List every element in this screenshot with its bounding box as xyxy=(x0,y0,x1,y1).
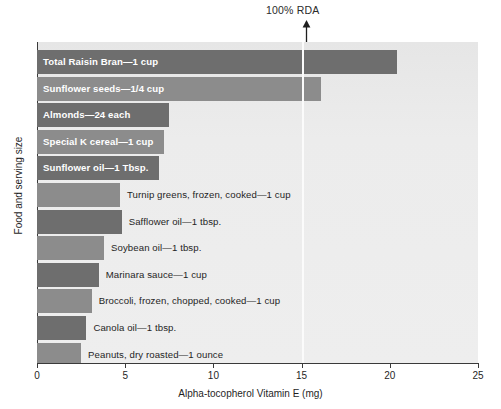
bar xyxy=(37,289,92,313)
x-tick xyxy=(390,363,391,368)
bar-label: Marinara sauce—1 cup xyxy=(106,270,207,280)
bar-label: Total Raisin Bran—1 cup xyxy=(43,57,158,67)
bar-row: Safflower oil—1 tbsp. xyxy=(37,210,478,234)
rda-reference-line xyxy=(302,42,304,363)
bar-row: Broccoli, frozen, chopped, cooked—1 cup xyxy=(37,289,478,313)
rda-annotation-label: 100% RDA xyxy=(266,4,320,16)
bar-row: Turnip greens, frozen, cooked—1 cup xyxy=(37,183,478,207)
bar-row: Sunflower oil—1 Tbsp. xyxy=(37,156,478,180)
bar-row: Marinara sauce—1 cup xyxy=(37,263,478,287)
bar-label: Almonds—24 each xyxy=(43,110,130,120)
bar xyxy=(37,183,120,207)
x-axis-label: Alpha-tocopherol Vitamin E (mg) xyxy=(0,388,501,399)
bar-label: Soybean oil—1 tbsp. xyxy=(111,243,201,253)
bar-label: Peanuts, dry roasted—1 ounce xyxy=(88,350,223,360)
bar-label: Broccoli, frozen, chopped, cooked—1 cup xyxy=(99,297,281,307)
x-tick xyxy=(37,363,38,368)
x-tick xyxy=(213,363,214,368)
bar xyxy=(37,236,104,260)
bar-label: Turnip greens, frozen, cooked—1 cup xyxy=(127,190,291,200)
x-tick-label: 20 xyxy=(384,370,395,381)
x-tick-label: 5 xyxy=(122,370,128,381)
x-tick-label: 0 xyxy=(34,370,40,381)
y-axis-label: Food and serving size xyxy=(13,86,24,286)
bar-series: Total Raisin Bran—1 cupSunflower seeds—1… xyxy=(37,42,478,363)
x-tick-label: 15 xyxy=(296,370,307,381)
x-tick xyxy=(125,363,126,368)
rda-up-arrow-icon xyxy=(301,20,312,44)
chart-figure: 100% RDA Total Raisin Bran—1 cupSunflowe… xyxy=(0,0,501,409)
bar-row: Special K cereal—1 cup xyxy=(37,130,478,154)
bar-row: Peanuts, dry roasted—1 ounce xyxy=(37,343,478,363)
bar-row: Canola oil—1 tbsp. xyxy=(37,316,478,340)
bar-row: Soybean oil—1 tbsp. xyxy=(37,236,478,260)
bar-label: Canola oil—1 tbsp. xyxy=(93,323,176,333)
bar-row: Sunflower seeds—1/4 cup xyxy=(37,77,478,101)
bar-row: Total Raisin Bran—1 cup xyxy=(37,50,478,74)
bar-row: Almonds—24 each xyxy=(37,103,478,127)
bar xyxy=(37,263,99,287)
x-tick xyxy=(478,363,479,368)
bar xyxy=(37,210,122,234)
x-tick xyxy=(302,363,303,368)
bar-label: Safflower oil—1 tbsp. xyxy=(129,217,222,227)
bar-label: Sunflower seeds—1/4 cup xyxy=(43,84,164,94)
x-axis-line xyxy=(37,363,478,364)
x-tick-label: 25 xyxy=(472,370,483,381)
bar xyxy=(37,343,81,363)
bar xyxy=(37,316,86,340)
bar-label: Special K cereal—1 cup xyxy=(43,137,153,147)
bar-label: Sunflower oil—1 Tbsp. xyxy=(43,164,149,174)
plot-area: Total Raisin Bran—1 cupSunflower seeds—1… xyxy=(37,42,478,363)
x-tick-label: 10 xyxy=(208,370,219,381)
